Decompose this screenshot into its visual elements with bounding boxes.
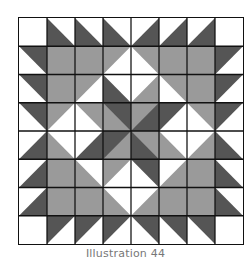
quilt-cell [19,159,47,187]
quilt-cell [47,131,75,159]
quilt-cell [159,216,187,244]
quilt-cell [47,188,75,216]
quilt-cell [19,46,47,74]
quilt-cell [75,159,103,187]
quilt-cell [47,159,75,187]
quilt-cell [75,46,103,74]
quilt-cell [103,103,131,131]
quilt-cell [215,18,243,46]
quilt-cell [215,159,243,187]
quilt-cell [187,216,215,244]
quilt-cell [103,159,131,187]
quilt-cell [75,103,103,131]
quilt-cell [159,131,187,159]
quilt-cell [103,131,131,159]
quilt-cell [47,18,75,46]
quilt-cell [131,188,159,216]
quilt-cell [103,188,131,216]
quilt-cell [75,18,103,46]
quilt-cell [19,18,47,46]
quilt-cell [215,46,243,74]
quilt-cell [103,46,131,74]
quilt-cell [159,188,187,216]
quilt-block-diagram [18,17,244,245]
quilt-cell [131,18,159,46]
quilt-cell [47,103,75,131]
quilt-grid [19,18,243,244]
quilt-cell [215,131,243,159]
quilt-cell [75,75,103,103]
quilt-cell [159,46,187,74]
quilt-cell [215,216,243,244]
quilt-cell [131,75,159,103]
quilt-cell [19,216,47,244]
quilt-cell [47,46,75,74]
quilt-cell [103,216,131,244]
quilt-cell [19,103,47,131]
quilt-cell [187,18,215,46]
quilt-cell [131,216,159,244]
quilt-cell [19,188,47,216]
quilt-cell [75,131,103,159]
quilt-cell [159,75,187,103]
quilt-cell [159,159,187,187]
quilt-cell [215,103,243,131]
quilt-cell [103,75,131,103]
illustration-caption: Illustration 44 [0,247,251,260]
quilt-cell [187,75,215,103]
quilt-cell [103,18,131,46]
quilt-cell [19,131,47,159]
quilt-cell [19,75,47,103]
quilt-cell [187,103,215,131]
quilt-cell [187,131,215,159]
quilt-cell [187,46,215,74]
quilt-cell [75,188,103,216]
quilt-cell [131,159,159,187]
quilt-cell [215,188,243,216]
quilt-cell [131,131,159,159]
quilt-cell [159,18,187,46]
quilt-cell [159,103,187,131]
quilt-cell [75,216,103,244]
quilt-cell [187,159,215,187]
quilt-cell [131,103,159,131]
quilt-cell [47,216,75,244]
quilt-cell [47,75,75,103]
quilt-cell [131,46,159,74]
quilt-cell [215,75,243,103]
quilt-cell [187,188,215,216]
